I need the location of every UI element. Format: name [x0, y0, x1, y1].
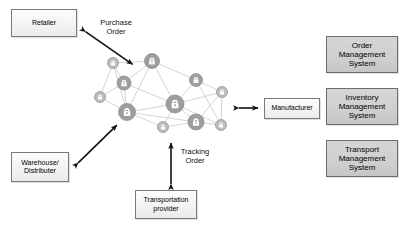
network-node-n11	[216, 120, 227, 131]
network-node-n7	[166, 95, 184, 113]
network-node-n4	[95, 92, 106, 103]
box-label-manufacturer: Manufacturer	[269, 104, 314, 112]
network-node-n2	[145, 54, 160, 69]
box-label-order-management-system: Order Management System	[327, 41, 397, 69]
box-transport-management-system: Transport Management System	[326, 140, 398, 177]
lock-icon-keyhole	[123, 83, 124, 84]
edge-label-purchase-order: Purchase Order	[94, 18, 138, 37]
lock-icon-keyhole	[126, 112, 128, 114]
network-node-n8	[188, 114, 204, 130]
lock-icon-keyhole	[195, 122, 197, 124]
box-label-inventory-management-system: Inventory Management System	[327, 93, 397, 121]
diagram-canvas: RetailerWarehouse/ DistributerManufactur…	[0, 0, 414, 226]
network-links	[100, 61, 222, 127]
lock-icon-body	[161, 126, 165, 129]
box-retailer: Retailer	[11, 9, 77, 37]
network-node-n9	[190, 74, 203, 87]
network-node-n5	[119, 104, 136, 121]
lock-icon-body	[98, 96, 102, 99]
lock-icon-body	[194, 79, 199, 83]
network-node-n10	[217, 87, 228, 98]
edge-label-tracking-order: Tracking Order	[177, 147, 213, 166]
box-label-transport-management-system: Transport Management System	[327, 145, 397, 173]
box-inventory-management-system: Inventory Management System	[326, 88, 398, 125]
network-node-n3	[117, 76, 131, 90]
network-node-n1	[108, 58, 119, 69]
box-label-warehouse: Warehouse/ Distributer	[19, 159, 60, 175]
box-warehouse: Warehouse/ Distributer	[11, 152, 69, 182]
lock-icon-body	[219, 124, 223, 127]
lock-icon-body	[111, 62, 115, 65]
network-nodes	[95, 54, 228, 133]
box-transportation: Transportation provider	[135, 190, 197, 219]
network-node-n6	[158, 122, 169, 133]
box-order-management-system: Order Management System	[326, 36, 398, 73]
box-manufacturer: Manufacturer	[264, 98, 320, 119]
lock-icon-body	[220, 91, 224, 94]
lock-icon-keyhole	[151, 61, 153, 63]
box-label-retailer: Retailer	[30, 19, 58, 27]
lock-icon-keyhole	[174, 104, 176, 106]
box-label-transportation: Transportation provider	[142, 196, 191, 212]
